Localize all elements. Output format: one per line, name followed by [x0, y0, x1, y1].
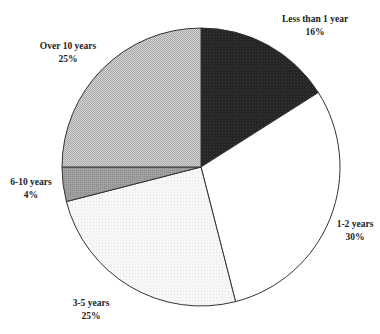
slice-label: Over 10 years25%: [40, 40, 96, 66]
slice-label-name: Over 10 years: [40, 40, 96, 53]
slice-label-name: Less than 1 year: [282, 13, 348, 26]
slice-label: 3-5 years25%: [73, 297, 110, 323]
slice-label-name: 1-2 years: [337, 218, 374, 231]
slice-label-name: 3-5 years: [73, 297, 110, 310]
pie-slices: [62, 28, 340, 306]
slice-label-percent: 16%: [282, 26, 348, 39]
slice-label: Less than 1 year16%: [282, 13, 348, 39]
slice-label-name: 6-10 years: [10, 176, 51, 189]
slice-label-percent: 30%: [337, 231, 374, 244]
slice-label-percent: 25%: [73, 310, 110, 323]
slice-label-percent: 4%: [10, 189, 51, 202]
slice-label-percent: 25%: [40, 53, 96, 66]
slice-label: 6-10 years4%: [10, 176, 51, 202]
slice-label: 1-2 years30%: [337, 218, 374, 244]
